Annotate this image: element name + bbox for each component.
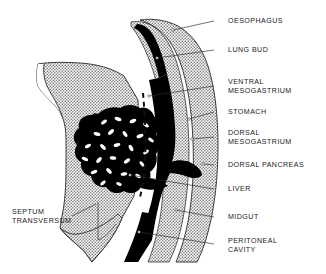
diagram-canvas: OESOPHAGUSLUNG BUDVENTRALMESOGASTRIUMSTO… (0, 0, 326, 274)
leader-dot-stomach (188, 118, 191, 121)
label-liver: LIVER (228, 185, 251, 193)
leader-dot-liver (129, 174, 132, 177)
leader-dot-midgut (175, 209, 178, 212)
anatomical-figure: OESOPHAGUSLUNG BUDVENTRALMESOGASTRIUMSTO… (0, 0, 326, 274)
label-lung-bud: LUNG BUD (228, 46, 268, 54)
label-dorsal-mesogastrium-line2: MESOGASTRIUM (228, 138, 292, 146)
label-peritoneal-cavity-line2: CAVITY (228, 246, 256, 254)
label-septum-transversum-line2: TRANSVERSUM (12, 217, 71, 225)
label-dorsal-mesogastrium: DORSAL (228, 129, 260, 137)
leader-dot-lung-bud (156, 57, 159, 60)
leader-dot-peritoneal-cavity (138, 231, 141, 234)
label-ventral-mesogastrium-line2: MESOGASTRIUM (228, 87, 292, 95)
label-midgut: MIDGUT (228, 213, 259, 221)
label-stomach: STOMACH (228, 108, 267, 116)
label-peritoneal-cavity: PERITONEAL (228, 237, 277, 245)
leader-dot-oesophagus (172, 29, 175, 32)
label-dorsal-pancreas: DORSAL PANCREAS (228, 161, 304, 169)
label-ventral-mesogastrium: VENTRAL (228, 78, 264, 86)
leader-dot-dorsal-mesogastrium (191, 138, 194, 141)
label-septum-transversum: SEPTUM (12, 208, 44, 216)
leader-dot-ventral-mesogastrium (148, 95, 151, 98)
label-oesophagus: OESOPHAGUS (228, 17, 283, 25)
leader-line-oesophagus (173, 21, 214, 30)
leader-dot-dorsal-pancreas (202, 163, 205, 166)
